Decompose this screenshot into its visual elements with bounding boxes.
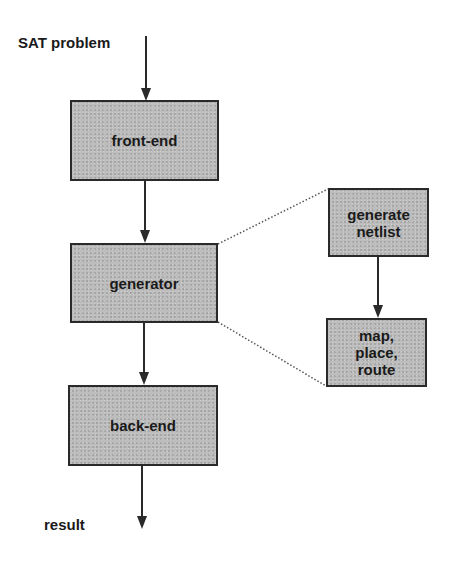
back-end-label: back-end <box>110 417 176 434</box>
generate-netlist-box: generate netlist <box>328 188 429 257</box>
front-end-box: front-end <box>70 100 219 181</box>
arrow-input <box>141 36 151 101</box>
arrow-generator-backend <box>139 323 149 385</box>
output-label: result <box>44 516 85 533</box>
generator-box: generator <box>70 243 218 323</box>
front-end-label: front-end <box>112 132 178 149</box>
arrow-output <box>137 466 147 529</box>
arrow-frontend-generator <box>140 181 150 243</box>
map-place-route-box: map, place, route <box>326 318 427 387</box>
connectors <box>0 0 450 564</box>
arrow-netlist-map <box>373 257 383 318</box>
map-place-route-label: map, place, route <box>355 327 398 378</box>
generator-label: generator <box>109 275 178 292</box>
input-label: SAT problem <box>18 34 110 51</box>
generate-netlist-label: generate netlist <box>347 206 410 240</box>
back-end-box: back-end <box>68 385 218 466</box>
expansion-lines <box>218 189 328 386</box>
